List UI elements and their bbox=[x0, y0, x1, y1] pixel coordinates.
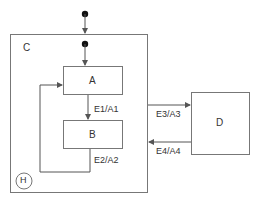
transition-e4-label: E4/A4 bbox=[156, 147, 181, 156]
history-label: H bbox=[20, 176, 27, 185]
statechart-canvas bbox=[0, 0, 260, 202]
transition-e3-label: E3/A3 bbox=[156, 110, 181, 119]
state-c-label: C bbox=[23, 43, 30, 53]
state-c-box[interactable] bbox=[11, 35, 148, 193]
state-d-label: D bbox=[216, 118, 223, 128]
state-a-label: A bbox=[89, 76, 96, 86]
transition-e2-label: E2/A2 bbox=[94, 156, 119, 165]
state-b-label: B bbox=[89, 130, 96, 140]
transition-e1-label: E1/A1 bbox=[94, 105, 119, 114]
